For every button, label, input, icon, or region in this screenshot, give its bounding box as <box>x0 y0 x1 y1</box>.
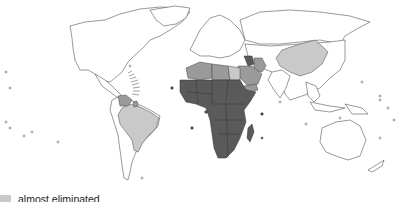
new-zealand <box>368 160 384 172</box>
sub-saharan-africa <box>180 80 256 158</box>
papua <box>345 104 368 114</box>
world-map <box>0 0 398 190</box>
libya <box>212 64 230 80</box>
iraq <box>244 56 254 66</box>
madagascar <box>247 124 254 142</box>
europe <box>190 15 245 58</box>
australia <box>320 120 366 160</box>
egypt <box>228 66 240 80</box>
legend-label-almost-eliminated: almost eliminated <box>18 193 100 202</box>
russia <box>240 10 370 44</box>
indonesia <box>310 102 345 112</box>
legend: almost eliminated <box>0 193 100 202</box>
caribbean-hatch <box>128 71 140 95</box>
north-africa-west <box>186 62 212 80</box>
guyana <box>133 101 138 107</box>
legend-swatch-almost-eliminated <box>0 195 11 203</box>
